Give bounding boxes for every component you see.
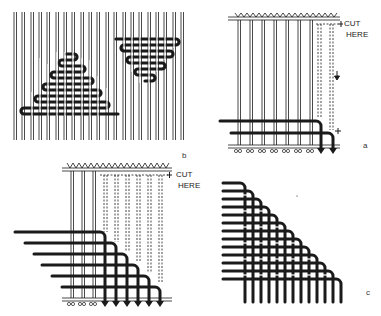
cut-here-label-b-line2: HERE: [178, 181, 200, 190]
weaving-diagram: [0, 0, 381, 316]
panel-letter-c: c: [366, 288, 370, 297]
cut-here-label-b-line1: CUT: [176, 170, 192, 179]
panel-letter-b: b: [182, 151, 186, 160]
cut-here-label-a-line2: HERE: [346, 30, 368, 39]
cut-here-label-a-line1: CUT: [344, 19, 360, 28]
panel-letter-a: a: [363, 141, 367, 150]
